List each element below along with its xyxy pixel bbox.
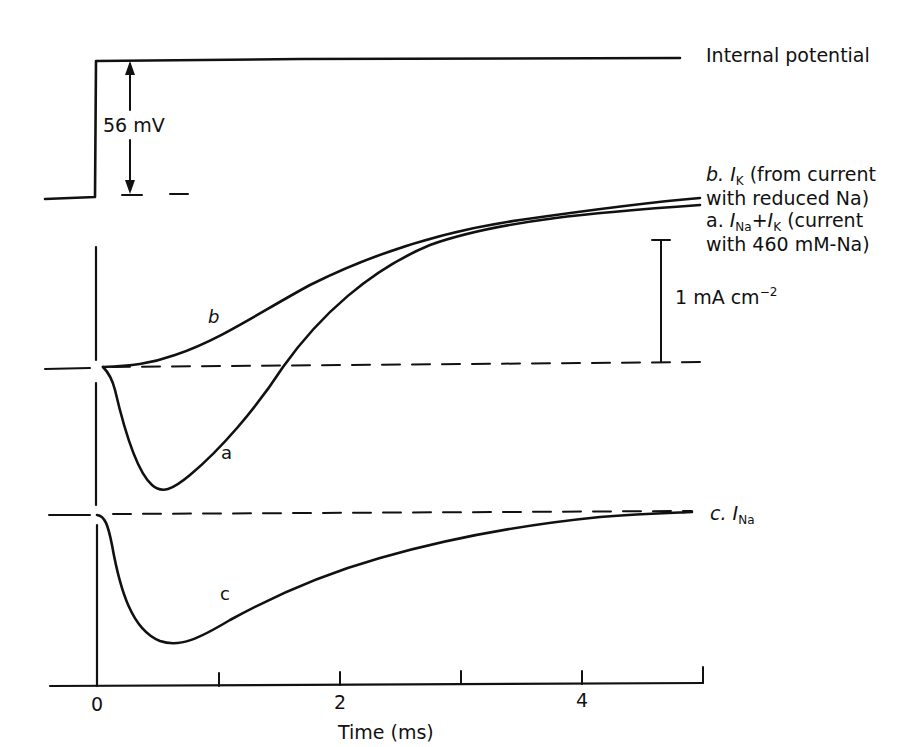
scale-bar-label-main: 1 mA cm [675, 286, 760, 308]
legend-a-plus: + [752, 209, 768, 231]
voltage-arrow-head-down [125, 180, 135, 194]
legend-a-line1: a. INa+IK (current [706, 210, 863, 235]
scale-bar-label: 1 mA cm−2 [675, 286, 777, 309]
x-axis-title: Time (ms) [338, 722, 434, 744]
x-tick-label-2: 2 [334, 692, 346, 714]
curve-b-ik [103, 198, 700, 367]
x-tick-label-0: 0 [91, 694, 103, 716]
voltage-arrow-head-up [125, 61, 135, 75]
baseline-c-dashed [113, 511, 692, 514]
baseline-ab-dashed [112, 362, 700, 367]
legend-b-sub: K [736, 174, 744, 188]
curve-c-ina [97, 512, 692, 643]
legend-a-text1: (current [787, 209, 863, 231]
legend-a-line2: with 460 mM-Na) [706, 234, 870, 256]
curve-b-label: b [208, 306, 219, 327]
legend-a-prefix: a. [706, 209, 724, 231]
figure-canvas [0, 0, 917, 747]
legend-c-sub: Na [738, 513, 754, 527]
internal-potential-label: Internal potential [706, 45, 870, 67]
legend-b-line2: with reduced Na) [706, 188, 869, 210]
legend-b-prefix: b. [706, 163, 724, 185]
curve-c-label: c [220, 583, 230, 604]
legend-c: c. INa [710, 503, 755, 528]
curve-a-label: a [221, 442, 232, 463]
legend-a-sub2: K [773, 220, 781, 234]
x-axis-line [50, 683, 703, 686]
baseline-ab-solid [45, 368, 90, 369]
scale-bar-label-exp: −2 [760, 285, 778, 299]
legend-b-line1: b. IK (from current [706, 164, 876, 189]
x-tick-label-4: 4 [576, 690, 588, 712]
legend-c-prefix: c. [710, 502, 727, 524]
voltage-step-label: 56 mV [103, 115, 165, 137]
legend-b-text1: (from current [750, 163, 876, 185]
legend-a-sub1: Na [735, 220, 751, 234]
